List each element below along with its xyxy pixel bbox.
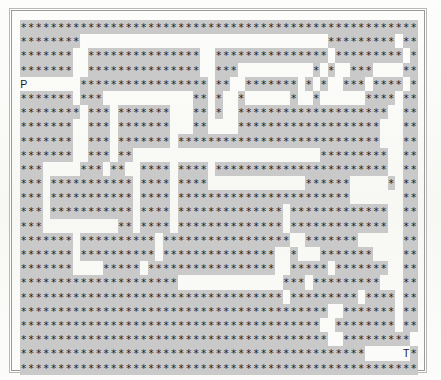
maze-wall-cell: * (268, 77, 276, 91)
maze-wall-cell: * (388, 290, 396, 304)
maze-wall-cell: * (103, 148, 111, 162)
maze-wall-cell: * (148, 219, 156, 233)
maze-wall-cell: * (275, 162, 283, 176)
maze-wall-cell: * (103, 332, 111, 346)
maze-wall-cell: * (110, 162, 118, 176)
maze-wall-cell: * (290, 134, 298, 148)
maze-wall-cell: * (73, 332, 81, 346)
maze-wall-cell: * (193, 290, 201, 304)
maze-wall-cell: * (178, 318, 186, 332)
maze-wall-cell: * (133, 304, 141, 318)
maze-wall-cell: * (335, 261, 343, 275)
maze-wall-cell: * (163, 204, 171, 218)
maze-row: ********************** (20, 91, 418, 105)
maze-wall-cell: * (403, 261, 411, 275)
maze-wall-cell: * (103, 304, 111, 318)
maze-wall-cell: * (65, 20, 73, 34)
maze-wall-cell: * (118, 332, 126, 346)
maze-wall-cell: * (230, 63, 238, 77)
maze-wall-cell: * (133, 247, 141, 261)
maze-wall-cell: * (208, 134, 216, 148)
maze-wall-cell: * (170, 346, 178, 360)
maze-wall-cell: * (290, 204, 298, 218)
maze-wall-cell: * (133, 332, 141, 346)
maze-wall-cell: * (343, 48, 351, 62)
maze-wall-cell: * (230, 190, 238, 204)
maze-wall-cell: * (170, 63, 178, 77)
maze-wall-cell: * (320, 105, 328, 119)
maze-wall-cell: * (268, 346, 276, 360)
maze-wall-cell: * (193, 332, 201, 346)
maze-wall-cell: * (260, 233, 268, 247)
maze-wall-cell: * (335, 318, 343, 332)
maze-wall-cell: * (245, 318, 253, 332)
maze-wall-cell: * (410, 119, 418, 133)
maze-wall-cell: * (193, 190, 201, 204)
maze-wall-cell: * (290, 332, 298, 346)
maze-wall-cell: * (410, 134, 418, 148)
maze-wall-cell: * (373, 275, 381, 289)
maze-wall-cell: * (403, 233, 411, 247)
maze-wall-cell: * (290, 119, 298, 133)
maze-wall-cell: * (283, 275, 291, 289)
maze-wall-cell: * (358, 247, 366, 261)
maze-wall-cell: * (200, 346, 208, 360)
maze-wall-cell: * (373, 290, 381, 304)
maze-wall-cell: * (223, 318, 231, 332)
maze-wall-cell: * (118, 134, 126, 148)
maze-wall-cell: * (155, 361, 163, 375)
maze-wall-cell: * (80, 346, 88, 360)
maze-wall-cell: * (58, 275, 66, 289)
maze-wall-cell: * (253, 204, 261, 218)
maze-wall-cell: * (350, 162, 358, 176)
maze-wall-cell: * (65, 204, 73, 218)
maze-wall-cell: * (178, 162, 186, 176)
maze-wall-cell: * (305, 318, 313, 332)
maze-wall-cell: * (163, 176, 171, 190)
maze-wall-cell: * (200, 304, 208, 318)
maze-wall-cell: * (80, 275, 88, 289)
maze-wall-cell: * (73, 290, 81, 304)
maze-wall-cell: * (35, 219, 43, 233)
maze-row: P************************************ (20, 77, 418, 91)
maze-wall-cell: * (215, 247, 223, 261)
maze-wall-cell: * (103, 275, 111, 289)
maze-wall-cell: * (380, 204, 388, 218)
maze-wall-cell: * (373, 304, 381, 318)
maze-wall-cell: * (313, 290, 321, 304)
maze-wall-cell: * (200, 219, 208, 233)
maze-wall-cell: * (118, 290, 126, 304)
maze-wall-cell: * (50, 275, 58, 289)
maze-wall-cell: * (313, 162, 321, 176)
maze-wall-cell: * (170, 247, 178, 261)
maze-wall-cell: * (208, 247, 216, 261)
maze-wall-cell: * (140, 346, 148, 360)
maze-wall-cell: * (200, 162, 208, 176)
maze-wall-cell: * (140, 304, 148, 318)
maze-wall-cell: * (88, 204, 96, 218)
maze-wall-cell: * (343, 20, 351, 34)
maze-wall-cell: * (20, 361, 28, 375)
maze-wall-cell: * (193, 346, 201, 360)
maze-wall-cell: * (305, 219, 313, 233)
maze-wall-cell: * (268, 304, 276, 318)
maze-wall-cell: * (275, 233, 283, 247)
maze-wall-cell: * (215, 332, 223, 346)
maze-wall-cell: * (148, 261, 156, 275)
maze-wall-cell: * (320, 247, 328, 261)
maze-wall-cell: * (65, 275, 73, 289)
maze-wall-cell: * (65, 148, 73, 162)
maze-wall-cell: * (125, 77, 133, 91)
maze-wall-cell: * (373, 318, 381, 332)
maze-wall-cell: * (268, 162, 276, 176)
maze-wall-cell: * (238, 20, 246, 34)
maze-wall-cell: * (305, 105, 313, 119)
maze-wall-cell: * (358, 48, 366, 62)
maze-wall-cell: * (28, 148, 36, 162)
maze-wall-cell: * (320, 275, 328, 289)
maze-wall-cell: * (298, 304, 306, 318)
maze-wall-cell: * (140, 247, 148, 261)
maze-wall-cell: * (215, 77, 223, 91)
maze-wall-cell: * (125, 20, 133, 34)
maze-wall-cell: * (178, 346, 186, 360)
